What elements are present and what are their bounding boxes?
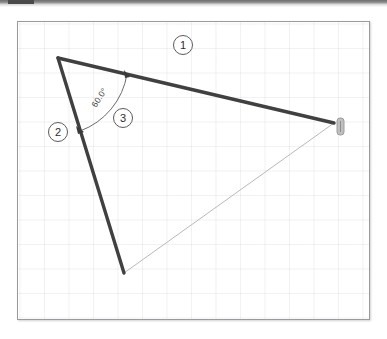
titlebar-shadow (0, 4, 387, 7)
edge-label-1-text: 1 (180, 39, 186, 51)
edge-3-closing[interactable] (124, 123, 334, 273)
sketch-drawing[interactable]: 60.0° 1 2 3 (18, 22, 370, 320)
edge-label-3-text: 3 (120, 112, 126, 124)
angle-dimension[interactable]: 60.0° (89, 86, 109, 109)
drag-handle[interactable] (337, 118, 344, 135)
sketch-canvas[interactable]: 60.0° 1 2 3 (17, 21, 370, 320)
edge-2[interactable] (58, 58, 124, 273)
edge-label-2-text: 2 (55, 126, 61, 138)
edge-label-3[interactable]: 3 (114, 109, 133, 128)
edge-label-1[interactable]: 1 (174, 36, 193, 55)
app-root: 60.0° 1 2 3 (0, 0, 387, 339)
edge-label-2[interactable]: 2 (49, 123, 68, 142)
angle-value-text: 60.0° (89, 86, 109, 109)
